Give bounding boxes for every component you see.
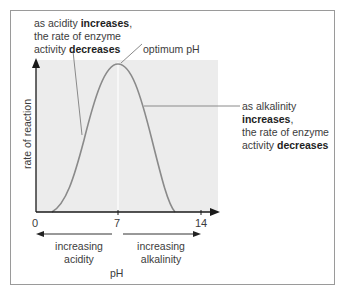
acidity-comma: , [129, 17, 132, 29]
right-arrow-icon [193, 231, 201, 237]
increasing-acidity-line1: increasing [44, 240, 114, 253]
x-tick-14: 14 [195, 217, 207, 229]
acidity-text: as acidity [34, 17, 81, 29]
increasing-alkalinity-label: increasing alkalinity [126, 240, 196, 266]
increasing-alkalinity-line2: alkalinity [126, 253, 196, 266]
y-axis-label: rate of reaction [21, 94, 33, 174]
alkalinity-bold-increases: increases [242, 113, 290, 125]
alkalinity-bold-decreases: decreases [277, 139, 328, 151]
x-axis-label: pH [110, 267, 123, 280]
acidity-bold-decreases: decreases [69, 43, 120, 55]
x-tick-0: 0 [32, 217, 38, 229]
alkalinity-text-line2: the rate of enzyme [242, 126, 344, 139]
acidity-annotation: as acidity increases, the rate of enzyme… [34, 17, 132, 56]
plot-background [36, 60, 218, 212]
optimum-annotation: optimum pH [143, 43, 200, 56]
alkalinity-text: as alkalinity [242, 100, 296, 112]
acidity-text-line2: the rate of enzyme [34, 30, 132, 43]
alkalinity-annotation: as alkalinity increases, the rate of enz… [242, 100, 344, 152]
acidity-bold-increases: increases [81, 17, 129, 29]
increasing-alkalinity-line1: increasing [126, 240, 196, 253]
x-tick-7: 7 [114, 217, 120, 229]
increasing-acidity-line2: acidity [44, 253, 114, 266]
alkalinity-text-line3: activity [242, 139, 277, 151]
alkalinity-comma: , [290, 113, 293, 125]
increasing-acidity-label: increasing acidity [44, 240, 114, 266]
acidity-text-line3: activity [34, 43, 69, 55]
left-arrow-icon [36, 231, 44, 237]
